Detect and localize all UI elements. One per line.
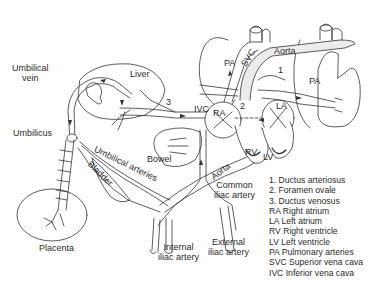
label-internal-iliac-line2: iliac artery (158, 252, 199, 262)
label-la: LA (276, 101, 287, 111)
label-pa-left: PA (224, 58, 235, 68)
legend-item: RV Right ventricle (269, 226, 363, 236)
label-internal-iliac-line1: Internal (158, 242, 199, 252)
label-ivc: IVC (194, 104, 209, 114)
legend-item: LA Left atrium (269, 216, 363, 226)
legend-item: PA Pulmonary arteries (269, 247, 363, 257)
label-umbilical-vein-line1: Umbilical (12, 63, 49, 73)
ductus-arteriosus (258, 76, 285, 81)
label-external-iliac-line2: iliac artery (208, 247, 249, 257)
label-foramen-ovale-number: 2 (240, 101, 245, 111)
label-bowel: Bowel (147, 154, 172, 164)
legend-item: LV Left ventricle (269, 237, 363, 247)
label-pa-right: PA (309, 76, 320, 86)
label-umbilical-vein-line2: vein (12, 73, 49, 83)
label-external-iliac-artery: External iliac artery (208, 237, 249, 257)
label-ra: RA (213, 108, 226, 118)
legend: 1. Ductus arteriosus 2. Foramen ovale 3.… (269, 175, 363, 278)
pulmonary-artery-left (200, 85, 238, 96)
label-umbilicus: Umbilicus (13, 128, 52, 138)
label-lv: LV (263, 152, 273, 162)
label-liver: Liver (130, 69, 150, 79)
label-umbilical-vein: Umbilical vein (12, 63, 49, 83)
label-rv: RV (245, 147, 257, 157)
legend-item: SVC Superior vena cava (269, 257, 363, 267)
liver-outline (78, 64, 165, 120)
placenta-outline (17, 189, 87, 241)
legend-item: 3. Ductus venosus (269, 196, 363, 206)
label-common-iliac-artery: Common iliac artery (214, 180, 255, 200)
legend-item: RA Right atrium (269, 206, 363, 216)
legend-item: IVC Inferior vena cava (269, 268, 363, 278)
legend-item: 2. Foramen ovale (269, 185, 363, 195)
label-external-iliac-line1: External (208, 237, 249, 247)
label-placenta: Placenta (39, 243, 74, 253)
label-ductus-arteriosus-number: 1 (278, 65, 283, 75)
label-ductus-venosus-number: 3 (166, 97, 171, 107)
label-internal-iliac-artery: Internal iliac artery (158, 242, 199, 262)
label-common-iliac-line1: Common (214, 180, 255, 190)
right-lung-outline (318, 52, 360, 127)
label-common-iliac-line2: iliac artery (214, 190, 255, 200)
label-aorta-upper: Aorta (274, 46, 296, 56)
neck-vessels (250, 24, 342, 42)
fetal-circulation-diagram: Umbilical vein Liver Umbilicus 3 IVC RA … (0, 0, 382, 282)
legend-item: 1. Ductus arteriosus (269, 175, 363, 185)
umbilicus-ring (67, 134, 77, 142)
